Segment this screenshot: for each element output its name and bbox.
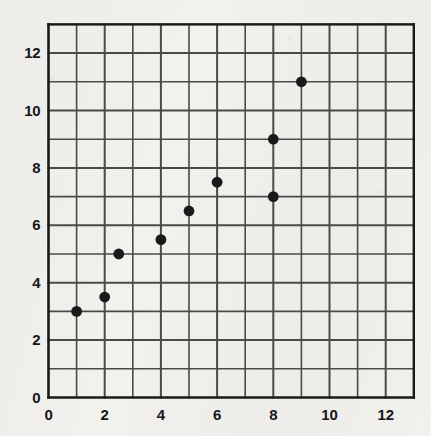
y-axis-tick-label: 12 [0,45,41,60]
data-point [113,249,124,260]
grid-lines [49,24,414,397]
data-point [296,76,307,87]
data-point [99,292,110,303]
y-axis-tick-label: 0 [0,390,41,405]
plot-canvas [0,0,431,436]
y-axis-tick-label: 4 [0,275,41,290]
x-axis-tick-label: 12 [366,407,406,422]
x-axis-tick-label: 0 [29,407,69,422]
y-axis-tick-label: 2 [0,332,41,347]
x-axis-tick-label: 2 [85,407,125,422]
data-point [268,191,279,202]
x-axis-tick-label: 4 [141,407,181,422]
x-axis-tick-label: 10 [310,407,350,422]
y-axis-tick-label: 10 [0,103,41,118]
data-point [268,134,279,145]
axes [49,24,414,397]
data-point [184,206,195,217]
data-point [156,234,167,245]
scatter-plot-figure: 024681012024681012 [0,0,431,436]
x-axis-tick-label: 8 [253,407,293,422]
y-axis-tick-label: 6 [0,217,41,232]
data-point [71,306,82,317]
x-axis-tick-label: 6 [197,407,237,422]
y-axis-tick-label: 8 [0,160,41,175]
data-point [212,177,223,188]
